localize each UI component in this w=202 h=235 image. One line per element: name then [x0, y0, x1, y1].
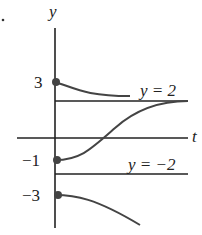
bullet-marker	[2, 19, 5, 22]
equilibrium-label-y2: y = 2	[138, 81, 177, 100]
equilibrium-label-y-neg2: y = −2	[126, 155, 176, 174]
solution-curve-y0-3	[55, 82, 130, 96]
tick-label-neg3: −3	[22, 186, 40, 205]
initial-point-neg1	[53, 156, 61, 164]
phase-diagram: y t 3 −1 −3 y = 2 y = −2	[0, 0, 202, 235]
solution-curve-y0-neg3	[55, 195, 140, 225]
tick-label-neg1: −1	[22, 151, 40, 170]
initial-point-3	[52, 78, 60, 86]
y-axis-label: y	[47, 2, 57, 21]
t-axis-label: t	[192, 127, 198, 146]
solution-curve-y0-neg1	[55, 101, 188, 160]
tick-label-3: 3	[34, 73, 43, 92]
initial-point-neg3	[54, 191, 62, 199]
